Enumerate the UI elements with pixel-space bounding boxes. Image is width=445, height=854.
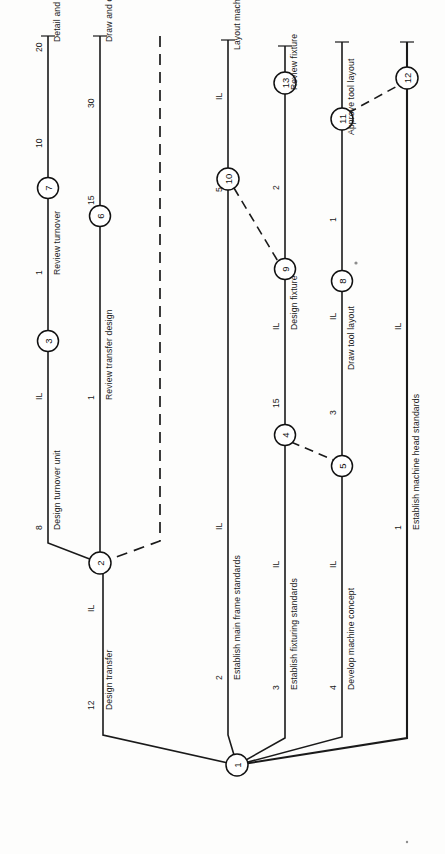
- node-8[interactable]: 8: [332, 271, 353, 292]
- paper-speck-artifact-2: [406, 841, 408, 843]
- tick-IL-design-transfer: IL: [86, 605, 96, 612]
- label-establish-main-frame-standards: Establish main frame standards: [232, 555, 242, 680]
- duration-2-review-fixture: 2: [271, 185, 281, 190]
- label-review-turnover: Review turnover: [52, 211, 62, 275]
- label-design-turnover-unit: Design turnover unit: [52, 450, 62, 530]
- duration-10: 10: [34, 138, 44, 148]
- node-1[interactable]: 1: [226, 754, 248, 776]
- duration-2-main-frame: 2: [214, 675, 224, 680]
- label-review-fixture: Review fixture: [289, 34, 299, 90]
- edge-1-to-12: [237, 78, 407, 765]
- node-7[interactable]: 7: [38, 178, 59, 199]
- node-12[interactable]: 12: [396, 67, 418, 89]
- duration-5: 5: [214, 187, 224, 192]
- node-12-label: 12: [402, 73, 413, 84]
- tick-IL-machine-concept: IL: [328, 561, 338, 568]
- tick-IL-design-turnover: IL: [34, 393, 44, 400]
- duration-15-transfer-details: 15: [86, 195, 96, 205]
- network-diagram-canvas: 1 2 3 7 6 10 4: [0, 0, 445, 854]
- label-establish-machine-head-standards: Establish machine head standards: [411, 394, 421, 530]
- label-draw-check-transfer-details: Draw and check transfer details: [104, 0, 114, 42]
- duration-3-draw-tool-layout: 3: [328, 410, 338, 415]
- label-draw-tool-layout: Draw tool layout: [346, 306, 356, 370]
- edge-1-to-4: [237, 435, 285, 765]
- label-review-transfer-design: Review transfer design: [104, 309, 114, 400]
- duration-12: 12: [86, 700, 96, 710]
- duration-15-design-fixture: 15: [271, 398, 281, 408]
- duration-1-review-transfer: 1: [86, 395, 96, 400]
- duration-1-approve-tool-layout: 1: [328, 217, 338, 222]
- tick-IL-layout-machine: IL: [214, 93, 224, 100]
- label-develop-machine-concept: Develop machine concept: [346, 587, 356, 690]
- label-establish-fixturing-standards: Establish fixturing standards: [289, 578, 299, 690]
- tick-IL-machine-head: IL: [393, 323, 403, 330]
- node-5[interactable]: 5: [332, 456, 353, 477]
- duration-30: 30: [86, 98, 96, 108]
- label-approve-tool-layout: Approve tool layout: [346, 58, 356, 135]
- node-4[interactable]: 4: [275, 425, 296, 446]
- node-3[interactable]: 3: [38, 331, 59, 352]
- node-9-label: 9: [280, 266, 291, 271]
- edge-2-dummy: [100, 36, 160, 563]
- tick-IL-draw-tool-layout: IL: [328, 313, 338, 320]
- pert-network-diagram: 1 2 3 7 6 10 4: [0, 0, 445, 854]
- label-design-transfer: Design transfer: [104, 649, 114, 710]
- tick-IL-design-fixture: IL: [271, 323, 281, 330]
- edges-from-node-2: [48, 36, 160, 563]
- node-6-label: 6: [95, 213, 106, 218]
- node-10-label: 10: [223, 174, 234, 185]
- tick-IL-fixturing: IL: [271, 561, 281, 568]
- duration-1-review-turnover: 1: [34, 270, 44, 275]
- dummy-10-to-9: [234, 188, 279, 263]
- node-7-label: 7: [43, 185, 54, 190]
- label-layout-machine: Layout machine: [232, 0, 242, 50]
- node-6[interactable]: 6: [90, 206, 111, 227]
- node-1-label: 1: [232, 762, 243, 767]
- node-4-label: 4: [280, 432, 291, 437]
- paper-speck-artifact: [354, 261, 357, 264]
- duration-1-machine-head: 1: [393, 525, 403, 530]
- tick-IL-main-frame: IL: [214, 523, 224, 530]
- node-10[interactable]: 10: [217, 168, 239, 190]
- activity-arrow-lines: [228, 40, 407, 466]
- dummy-4-to-5: [291, 442, 336, 461]
- activity-labels: Detail and check turnover Review turnove…: [52, 0, 421, 710]
- node-5-label: 5: [337, 463, 348, 468]
- label-design-fixture: Design fixture: [289, 275, 299, 330]
- edges-from-start-node: [103, 78, 407, 765]
- duration-8: 8: [34, 525, 44, 530]
- label-detail-check-turnover: Detail and check turnover: [52, 0, 62, 42]
- node-2[interactable]: 2: [89, 552, 111, 574]
- dummy-connectors: [234, 84, 401, 461]
- duration-3-fixturing: 3: [271, 685, 281, 690]
- edge-1-to-2: [103, 563, 237, 765]
- node-2-label: 2: [95, 560, 106, 565]
- node-3-label: 3: [43, 338, 54, 343]
- duration-20: 20: [34, 42, 44, 52]
- duration-4-machine-concept: 4: [328, 685, 338, 690]
- node-8-label: 8: [337, 278, 348, 283]
